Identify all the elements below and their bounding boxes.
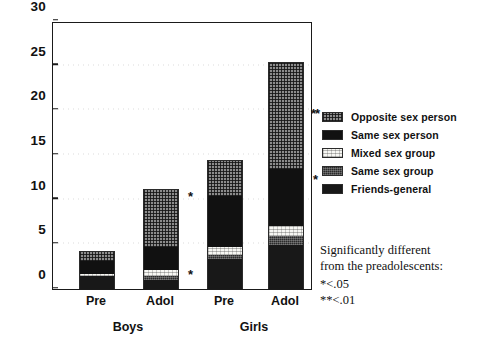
ytick-label-15: 15 (31, 133, 46, 148)
ytick-mark-30 (53, 19, 58, 21)
chart-legend: Opposite sex person Same sex person Mixe… (322, 108, 482, 198)
bar-segment-opposite-sex-person (269, 63, 303, 169)
footnote-line-2: from the preadolescents: (320, 259, 485, 275)
bar-girls-pre (207, 160, 243, 289)
bar-segment-friends-general (208, 259, 242, 289)
legend-item-opposite-sex-person: Opposite sex person (322, 108, 482, 125)
legend-label-mixed-sex-group: Mixed sex group (351, 147, 435, 159)
sig-mark-boys-adol-lower: * (188, 268, 192, 281)
bar-segment-friends-general (269, 245, 303, 289)
footnote-line-3: *<.05 (320, 277, 485, 293)
same-sex-person-swatch (322, 130, 343, 140)
ytick-label-30: 30 (31, 0, 46, 14)
legend-label-friends-general: Friends-general (351, 183, 431, 195)
sig-mark-girls-adol-upper: ** (311, 106, 319, 119)
bar-segment-mixed-sex-group (269, 226, 303, 236)
bar-segment-same-sex-person (269, 169, 303, 226)
legend-label-same-sex-group: Same sex group (351, 165, 434, 177)
xtick-label-boys-adol: Adol (146, 294, 174, 308)
opposite-sex-person-swatch (322, 112, 343, 122)
ytick-label-25: 25 (31, 43, 46, 58)
ytick-mark-25 (53, 63, 58, 65)
ytick-mark-10 (53, 197, 58, 199)
bar-segment-opposite-sex-person (144, 190, 178, 247)
bar-segment-same-sex-person (208, 196, 242, 247)
bar-girls-adol (268, 62, 304, 289)
sig-mark-boys-adol-upper: * (188, 189, 192, 202)
ytick-label-0: 0 (38, 267, 46, 282)
friends-general-swatch (322, 184, 343, 194)
bar-segment-same-sex-person (80, 261, 114, 274)
legend-label-opposite-sex-person: Opposite sex person (351, 111, 457, 123)
mixed-sex-group-swatch (322, 148, 343, 158)
ytick-label-10: 10 (31, 177, 46, 192)
ytick-label-20: 20 (31, 88, 46, 103)
legend-label-same-sex-person: Same sex person (351, 129, 439, 141)
legend-item-same-sex-person: Same sex person (322, 126, 482, 143)
bar-segment-friends-general (80, 276, 114, 289)
group-label-boys: Boys (113, 320, 144, 334)
bar-boys-pre (79, 251, 115, 289)
chart-plot-area: 0 5 10 15 20 25 30 * * ** * (52, 22, 312, 290)
same-sex-group-swatch (322, 166, 343, 176)
bar-segment-same-sex-person (144, 247, 178, 270)
xtick-label-girls-adol: Adol (271, 294, 299, 308)
xtick-label-boys-pre: Pre (86, 294, 106, 308)
ytick-mark-0 (53, 287, 58, 289)
ytick-label-5: 5 (38, 222, 46, 237)
bar-boys-adol (143, 189, 179, 289)
footnote-line-4: **<.01 (320, 293, 485, 309)
ytick-mark-5 (53, 242, 58, 244)
xtick-label-girls-pre: Pre (214, 294, 234, 308)
legend-item-same-sex-group: Same sex group (322, 162, 482, 179)
legend-item-friends-general: Friends-general (322, 180, 482, 197)
bar-segment-opposite-sex-person (80, 252, 114, 261)
significance-footnote: Significantly different from the preadol… (320, 243, 485, 309)
bar-segment-same-sex-group (269, 236, 303, 246)
ytick-mark-20 (53, 108, 58, 110)
bar-segment-mixed-sex-group (208, 247, 242, 255)
footnote-line-1: Significantly different (320, 243, 485, 259)
legend-item-mixed-sex-group: Mixed sex group (322, 144, 482, 161)
sig-mark-girls-adol-lower: * (313, 172, 317, 185)
group-label-girls: Girls (240, 320, 269, 334)
bar-segment-opposite-sex-person (208, 161, 242, 196)
ytick-mark-15 (53, 153, 58, 155)
bar-segment-friends-general (144, 280, 178, 289)
